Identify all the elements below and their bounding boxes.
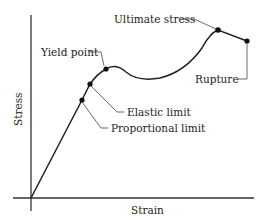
elastic-limit-point <box>87 81 92 86</box>
stress-strain-diagram: Strain Stress Proportional limit Elastic… <box>0 0 267 221</box>
y-axis-label: Stress <box>12 93 24 126</box>
ultimate-stress-label: Ultimate stress <box>114 13 195 25</box>
elastic-limit-leader <box>91 86 124 112</box>
yield-point-label: Yield point <box>40 46 99 58</box>
rupture-label: Rupture <box>195 73 239 85</box>
ultimate-stress-point <box>215 27 221 33</box>
proportional-limit-leader <box>82 102 108 128</box>
yield-point-marker <box>103 66 108 71</box>
elastic-limit-label: Elastic limit <box>127 106 191 118</box>
rupture-leader <box>238 43 247 79</box>
proportional-limit-point <box>79 97 84 102</box>
rupture-point <box>244 38 249 43</box>
x-axis-label: Strain <box>131 204 164 216</box>
proportional-limit-label: Proportional limit <box>111 122 206 134</box>
